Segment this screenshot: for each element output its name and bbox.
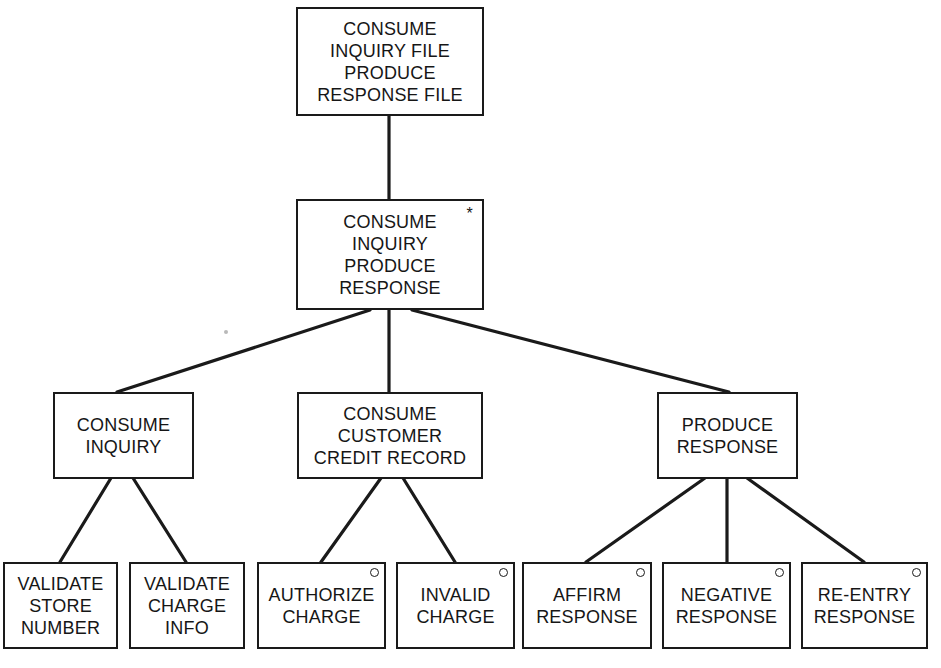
selection-circle-icon bbox=[912, 568, 921, 577]
node-label: NEGATIVE RESPONSE bbox=[676, 584, 778, 628]
selection-circle-icon bbox=[775, 568, 784, 577]
edge-iteration-consume-inquiry bbox=[117, 310, 370, 392]
node-label: VALIDATE CHARGE INFO bbox=[144, 573, 230, 639]
node-label: CONSUME INQUIRY FILE PRODUCE RESPONSE FI… bbox=[317, 18, 463, 106]
node-label: CONSUME INQUIRY bbox=[77, 414, 170, 458]
edge-produce-response-affirm bbox=[586, 478, 705, 562]
node-consume-inquiry-produce-response: CONSUME INQUIRY PRODUCE RESPONSE * bbox=[296, 199, 484, 310]
node-label: CONSUME CUSTOMER CREDIT RECORD bbox=[314, 403, 466, 469]
node-label: AUTHORIZE CHARGE bbox=[269, 584, 375, 628]
edge-consume-inquiry-validate-store bbox=[60, 478, 111, 562]
node-consume-inquiry: CONSUME INQUIRY bbox=[53, 392, 194, 479]
node-validate-charge-info: VALIDATE CHARGE INFO bbox=[129, 562, 245, 649]
node-validate-store-number: VALIDATE STORE NUMBER bbox=[3, 562, 118, 649]
node-label: VALIDATE STORE NUMBER bbox=[18, 573, 104, 639]
edge-iteration-produce-response bbox=[412, 310, 729, 392]
node-label: RE-ENTRY RESPONSE bbox=[814, 584, 916, 628]
selection-circle-icon bbox=[370, 568, 379, 577]
node-label: INVALID CHARGE bbox=[416, 584, 494, 628]
selection-circle-icon bbox=[636, 568, 645, 577]
node-produce-response: PRODUCE RESPONSE bbox=[657, 392, 798, 479]
node-affirm-response: AFFIRM RESPONSE bbox=[522, 562, 652, 649]
selection-circle-icon bbox=[499, 568, 508, 577]
node-re-entry-response: RE-ENTRY RESPONSE bbox=[801, 562, 928, 649]
iteration-asterisk-icon: * bbox=[467, 206, 473, 222]
edge-produce-response-reentry bbox=[747, 478, 864, 562]
scan-artifact bbox=[224, 330, 228, 334]
edge-consume-credit-authorize bbox=[321, 478, 381, 562]
node-label: CONSUME INQUIRY PRODUCE RESPONSE bbox=[339, 211, 441, 299]
node-authorize-charge: AUTHORIZE CHARGE bbox=[257, 562, 386, 649]
node-label: AFFIRM RESPONSE bbox=[536, 584, 638, 628]
edge-consume-inquiry-validate-charge bbox=[133, 478, 186, 562]
node-consume-inquiry-file-produce-response-file: CONSUME INQUIRY FILE PRODUCE RESPONSE FI… bbox=[296, 7, 484, 116]
edge-consume-credit-invalid bbox=[403, 478, 455, 562]
node-invalid-charge: INVALID CHARGE bbox=[396, 562, 515, 649]
node-label: PRODUCE RESPONSE bbox=[677, 414, 779, 458]
node-negative-response: NEGATIVE RESPONSE bbox=[662, 562, 791, 649]
node-consume-customer-credit-record: CONSUME CUSTOMER CREDIT RECORD bbox=[297, 392, 483, 479]
